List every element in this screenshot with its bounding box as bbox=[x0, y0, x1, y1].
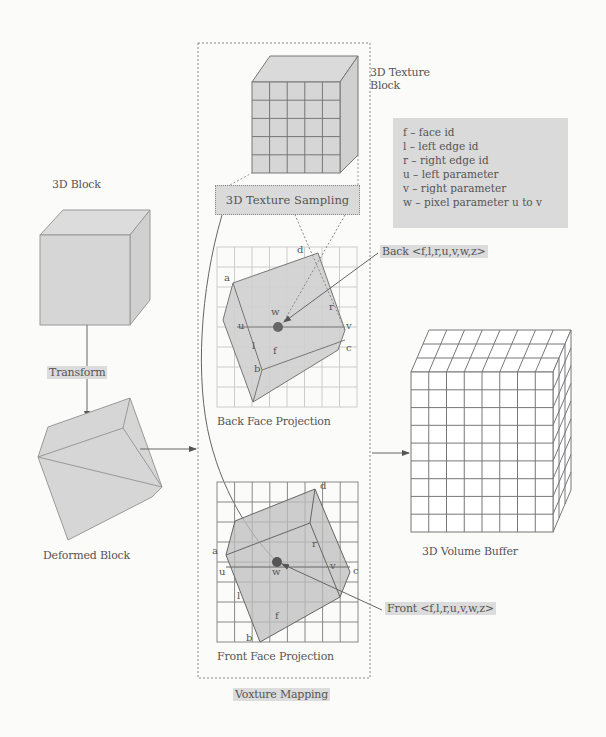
3d-volume-buffer bbox=[411, 330, 571, 532]
back-point-r: r bbox=[329, 301, 334, 312]
transform-label: Transform bbox=[47, 366, 107, 379]
deformed-block bbox=[38, 398, 162, 540]
legend-item: r – right edge id bbox=[403, 153, 568, 167]
back-face-polygon bbox=[223, 185, 345, 402]
back-point-u: u bbox=[238, 320, 244, 331]
legend-item: w – pixel parameter u to v bbox=[403, 195, 568, 209]
legend-item: l – left edge id bbox=[403, 139, 568, 153]
front-point-r: r bbox=[312, 538, 317, 549]
front-point-v: v bbox=[330, 560, 336, 571]
legend-box: f – face id l – left edge id r – right e… bbox=[393, 118, 568, 228]
3d-volume-buffer-label: 3D Volume Buffer bbox=[422, 545, 518, 558]
back-point-l: l bbox=[252, 340, 255, 351]
back-face-projection-label: Back Face Projection bbox=[217, 415, 331, 428]
front-point-u: u bbox=[219, 566, 225, 577]
voxture-mapping-label: Voxture Mapping bbox=[233, 688, 330, 701]
back-tuple-label: Back <f,l,r,u,v,w,z> bbox=[380, 245, 488, 258]
front-point-b: b bbox=[246, 632, 252, 643]
legend-item: u – left parameter bbox=[403, 167, 568, 181]
front-point-w: w bbox=[272, 566, 281, 577]
back-point-a: a bbox=[224, 272, 230, 283]
back-point-b: b bbox=[254, 363, 260, 374]
front-face-projection-label: Front Face Projection bbox=[217, 650, 334, 663]
legend-item: f – face id bbox=[403, 125, 568, 139]
3d-texture-block-label: 3D Texture Block bbox=[370, 66, 430, 92]
3d-texture-block-cube bbox=[230, 56, 358, 185]
front-point-d: d bbox=[320, 480, 326, 491]
back-point-v: v bbox=[346, 320, 352, 331]
front-tuple-label: Front <f,l,r,u,v,w,z> bbox=[385, 602, 496, 615]
front-point-a: a bbox=[212, 545, 218, 556]
3d-texture-sampling-box: 3D Texture Sampling bbox=[215, 185, 360, 215]
front-point-l: l bbox=[237, 590, 240, 601]
3d-block-label: 3D Block bbox=[52, 178, 101, 191]
front-point-f: f bbox=[275, 610, 279, 621]
front-point-c: c bbox=[353, 565, 359, 576]
3d-block-cube bbox=[40, 210, 150, 325]
legend-item: v – right parameter bbox=[403, 181, 568, 195]
back-point-f: f bbox=[273, 345, 277, 356]
back-point-w: w bbox=[271, 306, 280, 317]
back-point-d: d bbox=[297, 244, 303, 255]
deformed-block-label: Deformed Block bbox=[43, 549, 130, 562]
back-point-c: c bbox=[346, 342, 352, 353]
